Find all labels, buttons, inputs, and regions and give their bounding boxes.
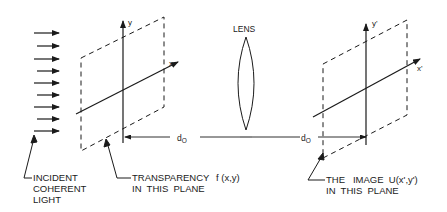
lens-shape-icon	[238, 37, 254, 130]
incident-light-label-line1: INCIDENT	[33, 172, 78, 183]
optics-diagram: y x LENS dO dO y' x' INCIDENT COHERENT L…	[0, 0, 447, 212]
object-plane: y x	[76, 17, 178, 151]
y-axis-label: y	[128, 18, 132, 27]
x-prime-axis-label: x'	[417, 64, 423, 73]
image-label-line1: THE IMAGE U(x',y')	[326, 174, 418, 185]
image-distance-label: dO	[301, 133, 311, 144]
incident-light-label-line3: LIGHT	[33, 194, 61, 205]
incident-light-label-line2: COHERENT	[33, 183, 87, 194]
lens: LENS	[233, 24, 256, 137]
incident-light-arrows	[34, 33, 59, 131]
transparency-leader-arrow-icon	[104, 139, 110, 147]
image-leader-arrow-icon	[318, 153, 324, 160]
object-distance-label: dO	[177, 133, 187, 144]
y-prime-axis-label: y'	[372, 19, 378, 28]
transparency-function: f (x,y)	[216, 172, 240, 183]
transparency-label: TRANSPARENCY IN THIS PLANE f (x,y)	[132, 172, 240, 194]
lens-label: LENS	[233, 24, 256, 34]
transparency-label-line2: IN THIS PLANE	[132, 183, 205, 194]
x-axis-arrow-icon	[76, 62, 178, 114]
transparency-label-line1: TRANSPARENCY	[132, 172, 210, 183]
incident-light-label: INCIDENT COHERENT LIGHT	[33, 172, 87, 205]
x-axis-label: x	[169, 59, 173, 68]
image-label-line2: IN THIS PLANE	[326, 185, 399, 196]
image-label: THE IMAGE U(x',y') IN THIS PLANE	[326, 174, 418, 196]
transparency-leader	[107, 142, 131, 178]
incident-light-leader-arrow-icon	[31, 135, 37, 143]
